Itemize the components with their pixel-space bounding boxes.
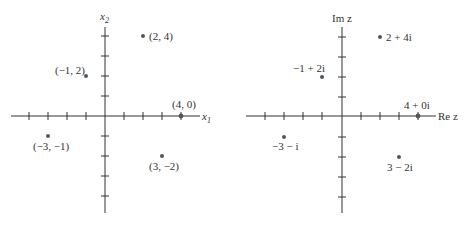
point-3-minus-2i xyxy=(397,155,401,159)
diagram-canvas: x1 x2 (2, 4) (−1, 2) (4, 0) (−3, −1) (3,… xyxy=(0,0,472,230)
point-neg1-2-label: (−1, 2) xyxy=(55,64,85,77)
point-4-plus-0i-label: 4 + 0i xyxy=(404,99,430,111)
real-axis-label: Re z xyxy=(438,110,458,122)
point-2-plus-4i xyxy=(378,35,382,39)
point-4-plus-0i xyxy=(416,114,421,119)
point-neg3-minus-i xyxy=(282,135,286,139)
point-3-neg2-label: (3, −2) xyxy=(149,160,179,173)
point-neg3-neg1 xyxy=(46,134,50,138)
imaginary-axis-label: Im z xyxy=(332,12,352,24)
point-3-neg2 xyxy=(160,154,164,158)
point-4-0-label: (4, 0) xyxy=(172,98,196,111)
left-plot: x1 x2 (2, 4) (−1, 2) (4, 0) (−3, −1) (3,… xyxy=(11,10,211,213)
point-neg3-neg1-label: (−3, −1) xyxy=(33,140,70,153)
point-2-4-label: (2, 4) xyxy=(149,30,173,43)
right-plot: Re z Im z 2 + 4i −1 + 2i 4 + 0i −3 − i 3… xyxy=(246,12,458,213)
x1-axis-label: x1 xyxy=(201,110,211,125)
point-4-0 xyxy=(179,114,184,119)
point-3-minus-2i-label: 3 − 2i xyxy=(387,161,413,173)
point-2-4 xyxy=(141,34,145,38)
x2-axis-label: x2 xyxy=(99,10,109,25)
point-neg3-minus-i-label: −3 − i xyxy=(272,140,298,152)
point-neg1-plus-2i xyxy=(320,75,324,79)
point-2-plus-4i-label: 2 + 4i xyxy=(386,31,412,43)
point-neg1-plus-2i-label: −1 + 2i xyxy=(293,62,325,74)
